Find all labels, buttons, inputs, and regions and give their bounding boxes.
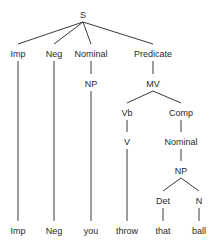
tree-node-v: V [124, 137, 130, 147]
tree-node-np1: NP [85, 79, 98, 89]
tree-node-n: N [196, 196, 203, 206]
tree-node-np2: NP [175, 166, 188, 176]
tree-node-det: Det [156, 196, 171, 206]
tree-node-leaf_throw: throw [116, 226, 139, 236]
tree-edge [83, 22, 91, 44]
tree-node-s: S [80, 10, 86, 20]
syntax-tree-diagram: SImpNegNominalPredicateNPMVVbCompVNomina… [0, 0, 216, 243]
tree-labels: SImpNegNominalPredicateNPMVVbCompVNomina… [10, 10, 206, 236]
tree-node-comp: Comp [169, 108, 193, 118]
tree-edge [18, 22, 83, 44]
tree-node-neg: Neg [46, 49, 63, 59]
tree-node-leaf_that: that [155, 226, 171, 236]
tree-node-mv: MV [146, 79, 160, 89]
tree-edge [153, 91, 181, 103]
tree-node-leaf_neg: Neg [46, 226, 63, 236]
tree-node-leaf_you: you [84, 226, 99, 236]
tree-edge [181, 178, 199, 191]
tree-node-vb: Vb [121, 108, 132, 118]
tree-edge [163, 178, 181, 191]
tree-node-imp: Imp [10, 49, 25, 59]
tree-edge [54, 22, 83, 44]
tree-node-predicate: Predicate [134, 49, 172, 59]
tree-node-leaf_imp: Imp [10, 226, 25, 236]
tree-edge [127, 91, 153, 103]
tree-node-nominal1: Nominal [74, 49, 107, 59]
tree-node-nominal2: Nominal [164, 137, 197, 147]
tree-edge [83, 22, 153, 44]
tree-node-leaf_ball: ball [192, 226, 206, 236]
